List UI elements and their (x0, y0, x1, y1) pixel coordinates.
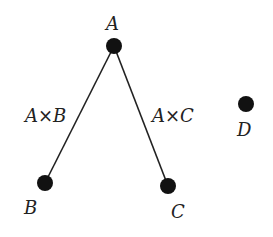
node-label-b: B (23, 197, 37, 218)
node-c (160, 178, 176, 194)
edge-label-a-c: A×C (150, 105, 194, 126)
node-d (238, 96, 254, 112)
node-label-c: C (171, 201, 185, 222)
node-label-d: D (236, 119, 252, 140)
edge-label-a-b: A×B (23, 105, 66, 126)
node-b (37, 175, 53, 191)
node-a (106, 38, 122, 54)
graph-diagram: A B C D A×B A×C (0, 0, 273, 237)
node-label-a: A (104, 13, 119, 34)
